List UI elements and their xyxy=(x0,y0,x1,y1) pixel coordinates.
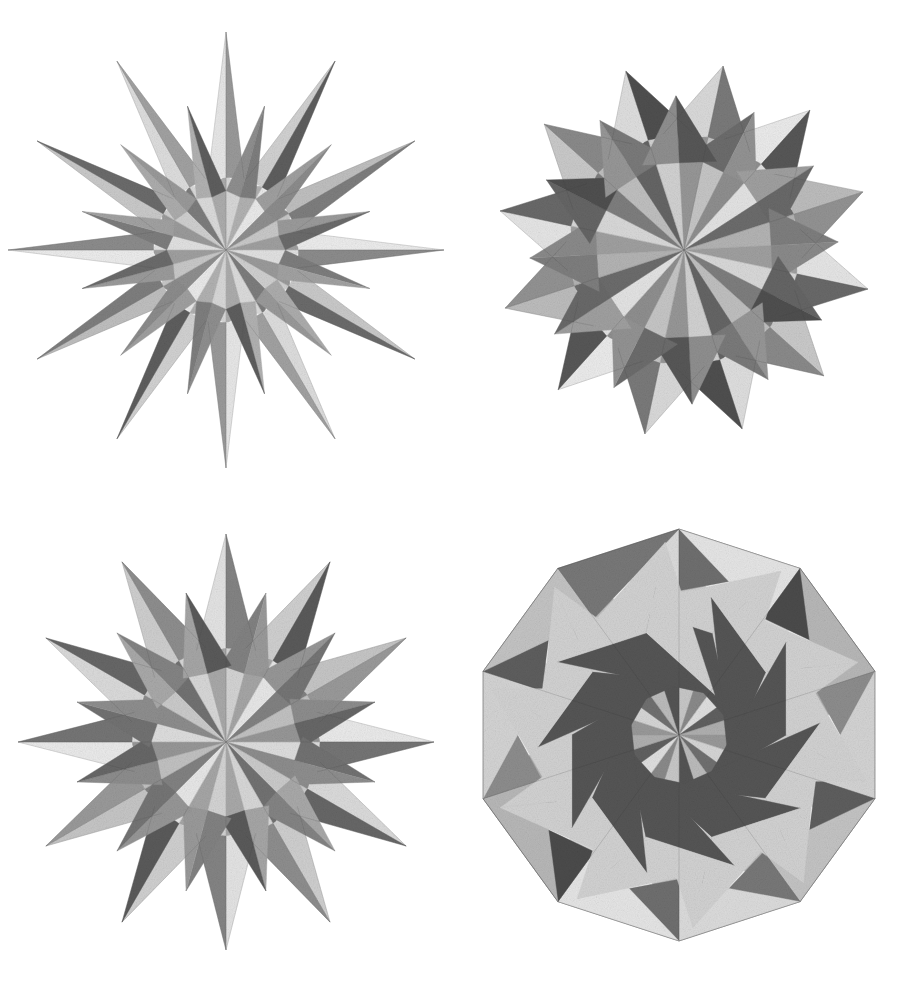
figure-svg-bottom-right xyxy=(453,495,906,990)
figure-svg-top-right xyxy=(453,0,906,495)
figure-great-icosahedron xyxy=(0,495,453,990)
figure-svg-bottom-left xyxy=(0,495,453,990)
figure-great-dodecahedron xyxy=(453,495,906,990)
figure-svg-top-left xyxy=(0,0,453,495)
figure-small-stellated-dodecahedron xyxy=(453,0,906,495)
figure-great-stellated-dodecahedron xyxy=(0,0,453,495)
polyhedra-plate: stipple lithograph engraving xyxy=(0,0,906,990)
